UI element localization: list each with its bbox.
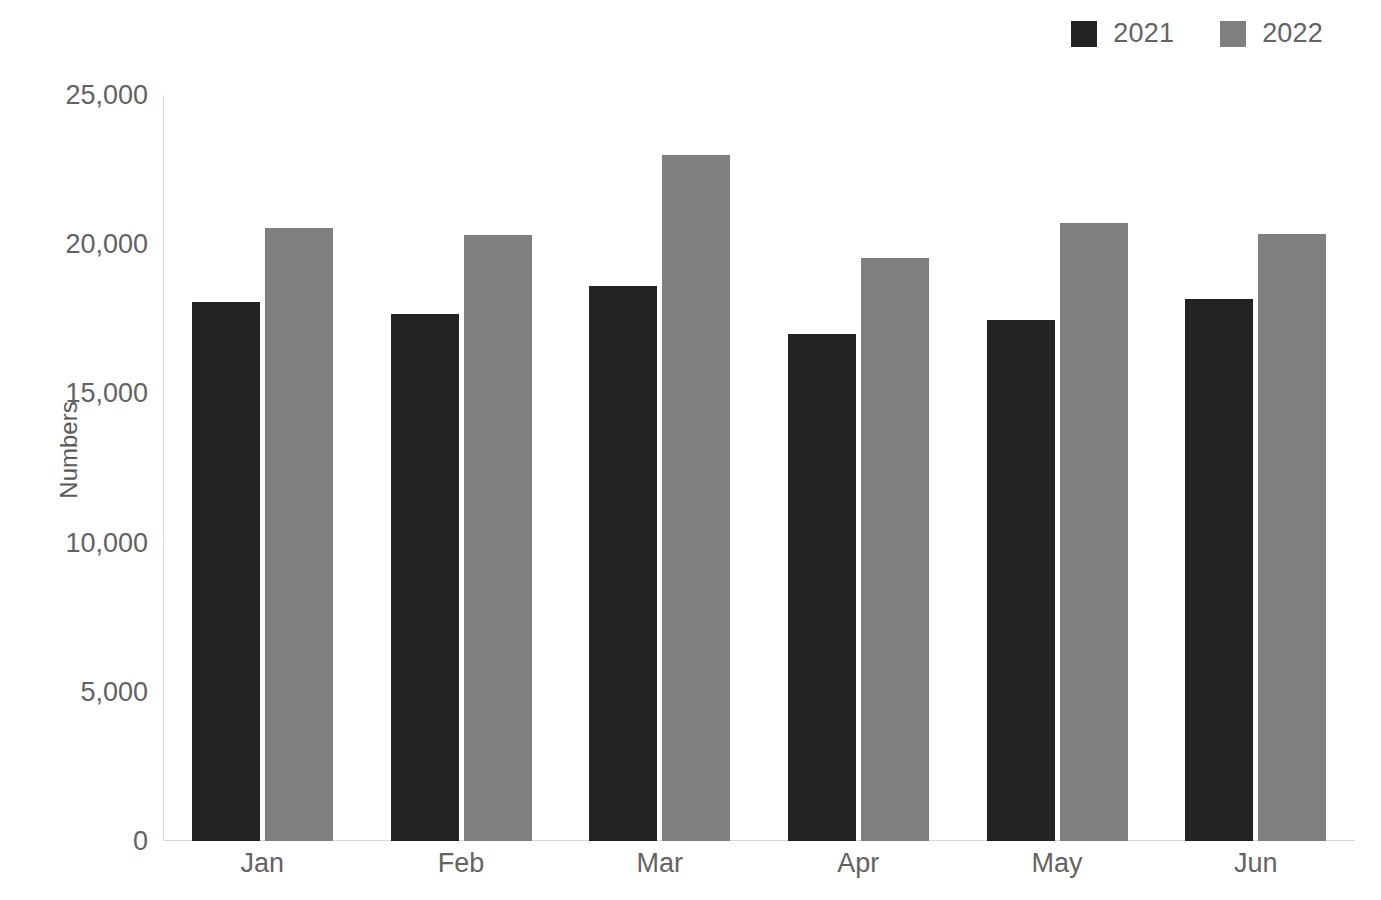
x-axis-tick-feb: Feb: [362, 848, 561, 879]
bar-group-mar: [560, 95, 759, 841]
bar-chart: 2021 2022 Numbers 05,00010,00015,00020,0…: [0, 0, 1381, 900]
y-axis-tick-labels: 05,00010,00015,00020,00025,000: [0, 95, 148, 841]
y-axis-tick-2: 10,000: [8, 527, 148, 558]
bar-feb-2021[interactable]: [391, 314, 459, 841]
y-axis-tick-5: 25,000: [8, 80, 148, 111]
y-axis-tick-1: 5,000: [8, 676, 148, 707]
x-axis-tick-jan: Jan: [163, 848, 362, 879]
x-axis-tick-apr: Apr: [759, 848, 958, 879]
x-axis-tick-jun: Jun: [1156, 848, 1355, 879]
chart-legend: 2021 2022: [1071, 20, 1323, 47]
bar-group-apr: [759, 95, 958, 841]
legend-item-2022[interactable]: 2022: [1220, 20, 1323, 47]
bar-jun-2022[interactable]: [1258, 234, 1326, 841]
bar-apr-2022[interactable]: [861, 258, 929, 841]
legend-swatch-2021-icon: [1071, 21, 1097, 47]
bar-groups: [163, 95, 1355, 841]
bar-mar-2022[interactable]: [662, 155, 730, 841]
x-axis-tick-labels: JanFebMarAprMayJun: [163, 848, 1355, 892]
plot-area: [163, 95, 1355, 841]
y-axis-tick-3: 15,000: [8, 378, 148, 409]
bar-jan-2022[interactable]: [265, 228, 333, 841]
bar-group-jan: [163, 95, 362, 841]
y-axis-tick-4: 20,000: [8, 229, 148, 260]
bar-mar-2021[interactable]: [589, 286, 657, 841]
bar-may-2022[interactable]: [1060, 223, 1128, 841]
bar-group-may: [958, 95, 1157, 841]
bar-feb-2022[interactable]: [464, 235, 532, 841]
bar-group-jun: [1156, 95, 1355, 841]
bar-group-feb: [362, 95, 561, 841]
legend-item-2021[interactable]: 2021: [1071, 20, 1174, 47]
bar-may-2021[interactable]: [987, 320, 1055, 841]
legend-label-2022: 2022: [1262, 20, 1323, 47]
bar-apr-2021[interactable]: [788, 334, 856, 841]
bar-jan-2021[interactable]: [192, 302, 260, 841]
legend-swatch-2022-icon: [1220, 21, 1246, 47]
x-axis-tick-mar: Mar: [560, 848, 759, 879]
bar-jun-2021[interactable]: [1185, 299, 1253, 841]
x-axis-tick-may: May: [958, 848, 1157, 879]
legend-label-2021: 2021: [1113, 20, 1174, 47]
y-axis-tick-0: 0: [8, 826, 148, 857]
